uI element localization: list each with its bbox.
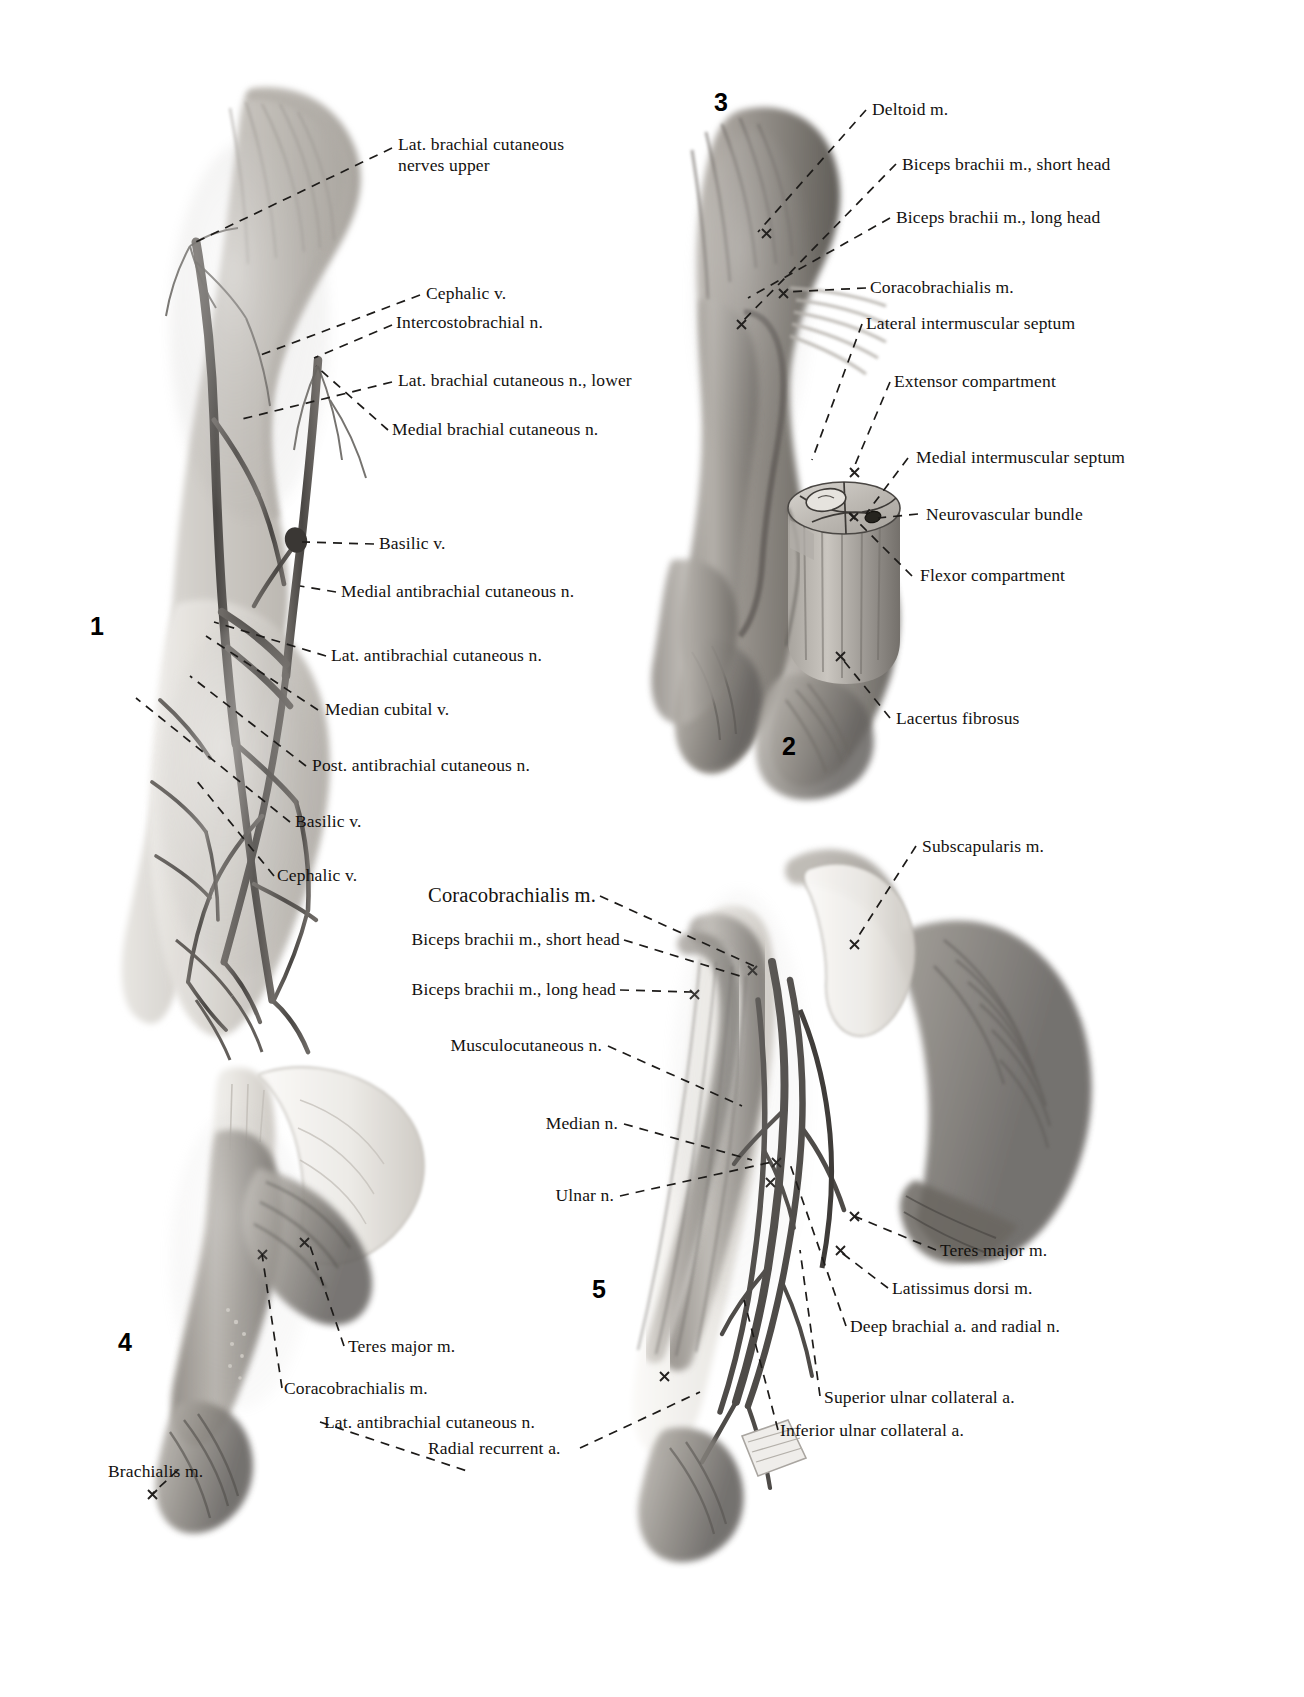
label-fig3-biceps-short-head: Biceps brachii m., short head (902, 154, 1110, 175)
label-fig1-medial-brachial-cutaneous-n: Medial brachial cutaneous n. (392, 419, 598, 440)
figure-number-2: 2 (782, 732, 796, 761)
label-fig5-musculocutaneous-n: Musculocutaneous n. (138, 1035, 602, 1056)
label-fig1-cephalic-v-upper: Cephalic v. (426, 283, 506, 304)
label-fig2-extensor-compartment: Extensor compartment (894, 371, 1056, 392)
label-fig1-medial-antibrachial-cutaneous-n: Medial antibrachial cutaneous n. (341, 581, 574, 602)
label-fig5-coracobrachialis-m: Coracobrachialis m. (118, 883, 596, 907)
label-fig5-ulnar-n: Ulnar n. (338, 1185, 614, 1206)
label-fig2-neurovascular-bundle: Neurovascular bundle (926, 504, 1083, 525)
label-fig5-subscapularis-m: Subscapularis m. (922, 836, 1044, 857)
label-fig1-lat-brachial-cutaneous-lower: Lat. brachial cutaneous n., lower (398, 370, 632, 391)
label-fig4-brachialis-m: Brachialis m. (108, 1461, 203, 1482)
label-fig5-median-n: Median n. (338, 1113, 618, 1134)
label-fig4-teres-major-m: Teres major m. (348, 1336, 455, 1357)
label-fig4-lat-antibrachial-cutaneous-n: Lat. antibrachial cutaneous n. (324, 1412, 535, 1433)
label-fig4-coracobrachialis-m: Coracobrachialis m. (284, 1378, 428, 1399)
figure-number-3: 3 (714, 88, 728, 117)
label-fig2-medial-intermuscular-septum: Medial intermuscular septum (916, 447, 1125, 468)
label-fig5-biceps-short-head: Biceps brachii m., short head (138, 929, 620, 950)
label-fig1-lat-antibrachial-cutaneous-n: Lat. antibrachial cutaneous n. (331, 645, 542, 666)
atlas-plate: Lat. brachial cutaneous nerves upper Cep… (0, 0, 1304, 1697)
figure-number-4: 4 (118, 1328, 132, 1357)
label-fig5-biceps-long-head: Biceps brachii m., long head (138, 979, 616, 1000)
label-fig4-radial-recurrent-a: Radial recurrent a. (428, 1438, 561, 1459)
label-fig2-lacertus-fibrosus: Lacertus fibrosus (896, 708, 1020, 729)
figure-number-1: 1 (90, 612, 104, 641)
label-fig5-teres-major-m: Teres major m. (940, 1240, 1047, 1261)
label-fig3-biceps-long-head: Biceps brachii m., long head (896, 207, 1100, 228)
label-fig1-basilic-v-lower: Basilic v. (295, 811, 361, 832)
label-fig5-superior-ulnar-collateral-a: Superior ulnar collateral a. (824, 1387, 1015, 1408)
label-fig1-intercostobrachial-n: Intercostobrachial n. (396, 312, 543, 333)
label-fig5-deep-brachial-a-radial-n: Deep brachial a. and radial n. (850, 1316, 1060, 1337)
label-fig1-median-cubital-v: Median cubital v. (325, 699, 449, 720)
label-fig1-lat-brachial-cutaneous-upper: Lat. brachial cutaneous nerves upper (398, 134, 564, 175)
label-fig3-lateral-intermuscular-septum: Lateral intermuscular septum (866, 313, 1075, 334)
figure-1-artwork (122, 87, 366, 1060)
label-fig3-coracobrachialis-m: Coracobrachialis m. (870, 277, 1014, 298)
label-fig1-basilic-v-upper: Basilic v. (379, 533, 445, 554)
figure-5-artwork (632, 849, 1092, 1562)
label-fig5-inferior-ulnar-collateral-a: Inferior ulnar collateral a. (780, 1420, 964, 1441)
figure-number-5: 5 (592, 1275, 606, 1304)
label-fig3-deltoid-m: Deltoid m. (872, 99, 948, 120)
label-fig5-latissimus-dorsi-m: Latissimus dorsi m. (892, 1278, 1032, 1299)
anatomical-artwork (0, 0, 1304, 1697)
label-fig1-post-antibrachial-cutaneous-n: Post. antibrachial cutaneous n. (312, 755, 530, 776)
label-fig2-flexor-compartment: Flexor compartment (920, 565, 1065, 586)
